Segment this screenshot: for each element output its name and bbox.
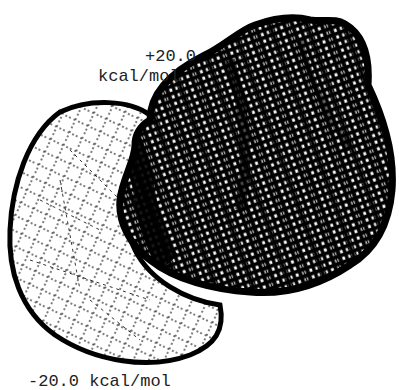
negative-value-label: -20.0 kcal/mol	[28, 372, 171, 390]
positive-unit-label: kcal/mol	[98, 67, 180, 86]
positive-value-label: +20.0	[145, 47, 196, 66]
